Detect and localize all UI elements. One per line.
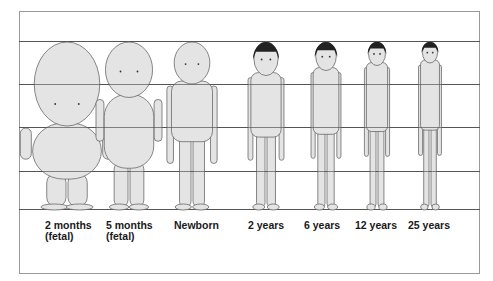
left-foot <box>109 204 128 210</box>
label-line-1: Newborn <box>174 220 219 231</box>
left-eye <box>321 56 323 58</box>
left-foot <box>421 204 428 210</box>
stage-label-5-months: 5 months (fetal) <box>106 220 153 242</box>
right-leg <box>378 126 384 207</box>
label-line-1: 6 years <box>304 220 340 231</box>
stage-label-2-years: 2 years <box>248 220 284 231</box>
right-foot <box>193 204 209 210</box>
head <box>174 42 210 84</box>
left-eye <box>54 103 56 105</box>
left-eye <box>120 71 122 73</box>
stage-label-25-years: 25 years <box>408 220 450 231</box>
right-eye <box>379 53 381 55</box>
left-foot <box>175 204 191 210</box>
left-foot <box>314 204 324 210</box>
torso <box>251 73 281 137</box>
right-leg <box>193 136 204 207</box>
left-leg <box>370 126 376 207</box>
torso <box>171 81 212 142</box>
label-line-2: (fetal) <box>106 231 153 242</box>
right-eye <box>78 103 80 105</box>
torso <box>421 60 440 130</box>
torso <box>33 123 102 179</box>
figure-25-years <box>419 42 442 210</box>
right-foot <box>267 204 279 210</box>
right-eye <box>269 59 271 61</box>
torso <box>104 94 153 168</box>
stage-label-newborn: Newborn <box>174 220 219 231</box>
right-foot <box>432 204 439 210</box>
left-eye <box>426 52 428 54</box>
left-arm <box>96 99 104 141</box>
left-leg <box>114 162 128 207</box>
left-foot <box>367 204 375 210</box>
right-leg <box>267 131 275 207</box>
left-arm <box>20 128 31 159</box>
right-foot <box>328 204 338 210</box>
right-leg <box>431 124 436 207</box>
right-arm <box>154 99 162 141</box>
left-leg <box>180 136 191 207</box>
right-eye <box>137 71 139 73</box>
torso <box>366 63 387 132</box>
torso <box>313 68 339 135</box>
right-foot <box>129 204 148 210</box>
right-eye <box>198 63 200 65</box>
right-foot <box>66 204 93 210</box>
figure-2-years <box>248 42 284 210</box>
head <box>105 42 152 97</box>
right-leg <box>130 162 144 207</box>
stage-label-6-years: 6 years <box>304 220 340 231</box>
left-eye <box>185 63 187 65</box>
label-line-1: 12 years <box>355 220 397 231</box>
figure-12-years <box>364 42 389 210</box>
label-line-2: (fetal) <box>45 231 92 242</box>
left-eye <box>261 59 263 61</box>
label-line-1: 2 years <box>248 220 284 231</box>
right-foot <box>379 204 387 210</box>
left-leg <box>424 124 429 207</box>
left-eye <box>373 53 375 55</box>
label-line-1: 25 years <box>408 220 450 231</box>
stage-label-2-months: 2 months (fetal) <box>45 220 92 242</box>
left-leg <box>318 128 325 207</box>
head <box>34 42 100 126</box>
stage-label-12-years: 12 years <box>355 220 397 231</box>
right-eye <box>432 52 434 54</box>
left-leg <box>257 131 265 207</box>
figure-6-years <box>311 42 341 210</box>
figure-5-months <box>96 42 162 210</box>
figure-newborn <box>167 42 217 210</box>
left-foot <box>41 204 68 210</box>
right-eye <box>329 56 331 58</box>
right-leg <box>327 128 334 207</box>
left-foot <box>253 204 265 210</box>
